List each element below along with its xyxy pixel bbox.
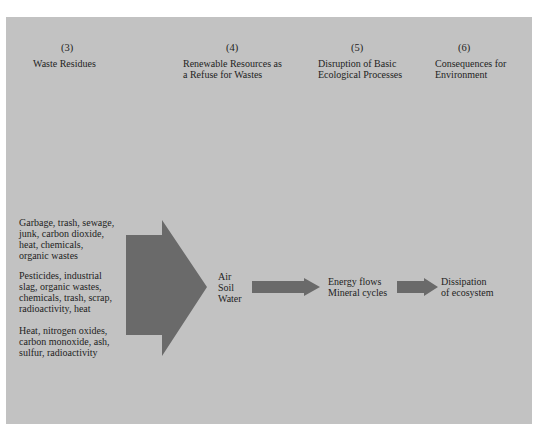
arrow-to-processes-icon — [252, 278, 320, 296]
big-arrow-icon — [126, 220, 207, 356]
arrows-layer — [0, 0, 556, 447]
arrow-to-consequence-icon — [397, 278, 438, 296]
